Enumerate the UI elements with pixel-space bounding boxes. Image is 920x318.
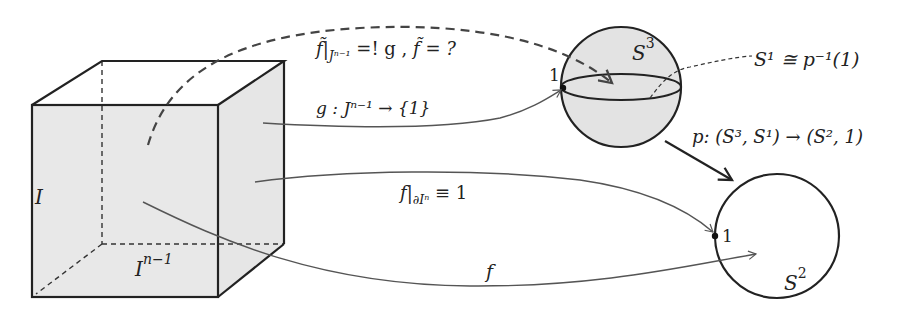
s2-label: S2: [784, 270, 807, 293]
lift-lhs: f̃|: [316, 38, 329, 59]
lift-eq: =! g ,: [351, 38, 413, 59]
s2-base: S: [784, 271, 798, 295]
boundary-rhs: ≡ 1: [429, 182, 467, 203]
s2-sup: 2: [798, 265, 807, 281]
lift-sub: Jⁿ⁻¹: [329, 48, 351, 63]
cube-bottom-base: I: [135, 257, 143, 281]
boundary-lhs: f|: [400, 182, 413, 203]
cube-bottom-label: In−1: [135, 256, 173, 279]
s3-sup: 3: [646, 35, 655, 51]
s3-base: S: [632, 41, 646, 65]
boundary-map-label: f|∂Iⁿ ≡ 1: [400, 184, 467, 206]
f-map-label: f: [486, 262, 493, 281]
cube-side-label: I: [35, 187, 43, 207]
fiber-label: S¹ ≅ p⁻¹(1): [754, 50, 859, 69]
s3-point-label: 1: [549, 67, 560, 84]
g-map-label: g : Jⁿ⁻¹ → {1}: [316, 100, 430, 117]
boundary-arrow: [255, 172, 713, 232]
cube-bottom-sup: n−1: [143, 251, 173, 267]
boundary-sub: ∂Iⁿ: [413, 192, 430, 207]
s2-point-label: 1: [722, 228, 733, 245]
sphere-s3: [560, 27, 681, 147]
cube-front-face: [32, 105, 218, 297]
lift-question-label: f̃|Jⁿ⁻¹ =! g , f̃ = ?: [316, 40, 456, 62]
basepoint-s2: [712, 233, 718, 239]
s3-label: S3: [632, 40, 655, 63]
projection-label: p: (S³, S¹) → (S², 1): [692, 128, 863, 146]
lift-rhs: f̃ = ?: [413, 38, 456, 59]
